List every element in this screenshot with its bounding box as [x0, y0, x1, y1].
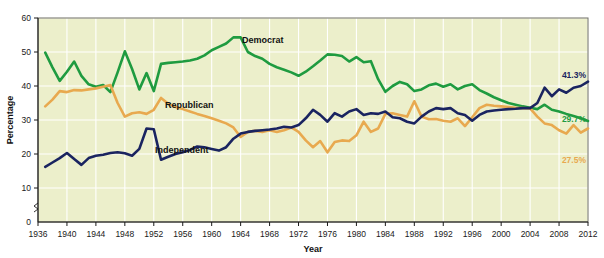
y-axis-title: Percentage — [5, 96, 15, 145]
y-tick-label: 60 — [22, 13, 32, 23]
series-label-democrat: Democrat — [242, 35, 284, 45]
axis-break-icon — [34, 203, 38, 212]
x-tick-label: 1972 — [289, 229, 308, 239]
end-value-label-democrat: 29.7% — [562, 114, 587, 124]
x-tick-label: 2004 — [521, 229, 540, 239]
x-tick-label: 2000 — [492, 229, 511, 239]
y-tick-label: 40 — [22, 81, 32, 91]
x-tick-label: 1960 — [202, 229, 221, 239]
x-axis: 1936194019441948195219561960196419681972… — [29, 222, 598, 239]
x-tick-label: 2008 — [550, 229, 569, 239]
x-axis-title: Year — [303, 244, 323, 254]
x-tick-label: 1996 — [463, 229, 482, 239]
x-tick-label: 1992 — [434, 229, 453, 239]
end-value-label-independent: 41.3% — [562, 70, 587, 80]
x-tick-label: 1952 — [144, 229, 163, 239]
y-axis: 0102030405060 — [22, 13, 38, 227]
x-tick-label: 1956 — [173, 229, 192, 239]
x-tick-label: 1976 — [318, 229, 337, 239]
chart-canvas: 0102030405060 19361940194419481952195619… — [0, 0, 604, 258]
x-tick-label: 1948 — [115, 229, 134, 239]
x-tick-label: 1940 — [57, 229, 76, 239]
party-affiliation-line-chart: 0102030405060 19361940194419481952195619… — [0, 0, 604, 258]
y-tick-label: 0 — [26, 217, 31, 227]
x-tick-label: 1980 — [347, 229, 366, 239]
x-tick-label: 1984 — [376, 229, 395, 239]
y-tick-label: 10 — [22, 183, 32, 193]
series-label-republican: Republican — [165, 100, 214, 110]
x-tick-label: 1964 — [231, 229, 250, 239]
x-tick-label: 2012 — [579, 229, 598, 239]
x-tick-label: 1936 — [29, 229, 48, 239]
x-tick-label: 1944 — [86, 229, 105, 239]
y-tick-label: 30 — [22, 115, 32, 125]
end-value-label-republican: 27.5% — [562, 155, 587, 165]
x-tick-label: 1988 — [405, 229, 424, 239]
series-label-independent: Independent — [155, 145, 209, 155]
y-tick-label: 50 — [22, 47, 32, 57]
y-tick-label: 20 — [22, 149, 32, 159]
x-tick-label: 1968 — [260, 229, 279, 239]
